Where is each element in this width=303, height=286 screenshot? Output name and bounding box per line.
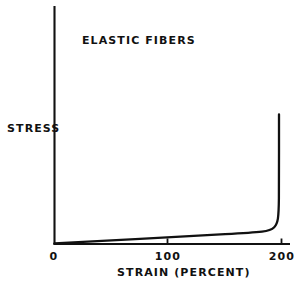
chart-figure: ELASTIC FIBERS STRESS STRAIN (PERCENT) 0… (0, 0, 303, 286)
x-tick-label-0: 0 (44, 250, 64, 263)
x-axis-label: STRAIN (PERCENT) (117, 266, 251, 279)
curve-elastic-fibers (55, 115, 280, 244)
chart-title: ELASTIC FIBERS (82, 34, 196, 47)
x-tick-label-100: 100 (152, 250, 184, 263)
x-tick-label-200: 200 (266, 250, 298, 263)
y-axis-label: STRESS (7, 122, 60, 135)
